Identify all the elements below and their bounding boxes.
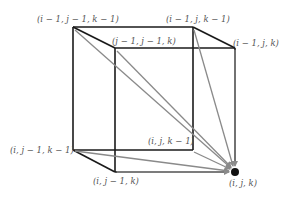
label-i-1-j-1-k: (j − 1, j − 1, k) — [112, 36, 176, 46]
label-i-1-j-k-1: (i − 1, j, k − 1) — [166, 14, 230, 24]
arrow-from-i-1-j-k-1 — [194, 30, 233, 166]
vertex-labels: (i − 1, j − 1, k − 1) (i − 1, j, k − 1) … — [10, 14, 279, 188]
target-node-dot — [231, 168, 239, 176]
label-i-j-k-1: (i, j, k − 1) — [148, 136, 194, 146]
arrow-from-i-1-j-1-k-1 — [75, 30, 231, 168]
label-i-j-1-k: (i, j − 1, k) — [93, 176, 139, 186]
label-i-1-j-k: (i − 1, j, k) — [233, 38, 279, 48]
label-i-j-1-k-1: (i, j − 1, k − 1) — [10, 145, 74, 155]
label-i-j-k: (i, j, k) — [229, 178, 257, 188]
edge-top-right-depth — [193, 27, 235, 48]
label-i-1-j-1-k-1: (i − 1, j − 1, k − 1) — [37, 14, 119, 24]
cube-diagram: (i − 1, j − 1, k − 1) (i − 1, j, k − 1) … — [0, 0, 284, 198]
edge-top-left-depth — [73, 27, 115, 48]
arrow-from-i-j-1-k-1 — [75, 151, 229, 171]
